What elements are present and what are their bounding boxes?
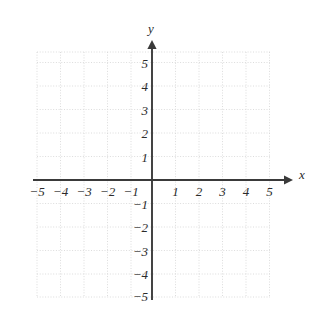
x-tick-label-1: 1 — [172, 185, 179, 198]
y-tick-label-1: 1 — [142, 150, 149, 163]
y-tick-label--1: −1 — [133, 197, 148, 210]
y-tick-label-5: 5 — [142, 56, 149, 69]
x-tick-label--5: −5 — [29, 185, 44, 198]
x-tick-label--2: −2 — [100, 185, 115, 198]
x-axis-label: x — [299, 168, 305, 181]
y-axis-arrow-icon — [147, 40, 156, 49]
x-tick-label--3: −3 — [76, 185, 91, 198]
grid-vertical-lines — [37, 52, 270, 297]
coordinate-plane-graph: −5 −4 −3 −2 −1 1 2 3 4 5 5 4 3 2 1 −1 −2… — [0, 0, 318, 318]
x-tick-label-2: 2 — [196, 185, 203, 198]
x-tick-label--4: −4 — [53, 185, 68, 198]
y-tick-label--2: −2 — [133, 221, 148, 234]
x-tick-label-4: 4 — [243, 185, 250, 198]
x-tick-label-5: 5 — [266, 185, 273, 198]
graph-canvas — [0, 0, 318, 318]
y-tick-label--4: −4 — [133, 268, 148, 281]
x-tick-label-3: 3 — [219, 185, 226, 198]
y-tick-label-2: 2 — [142, 127, 149, 140]
y-tick-label-4: 4 — [142, 80, 149, 93]
y-tick-label--5: −5 — [133, 290, 148, 303]
y-tick-label-3: 3 — [142, 103, 149, 116]
grid-horizontal-lines — [37, 52, 270, 297]
y-tick-label--3: −3 — [133, 244, 148, 257]
y-axis-label: y — [148, 22, 154, 35]
x-axis-arrow-icon — [284, 175, 293, 184]
